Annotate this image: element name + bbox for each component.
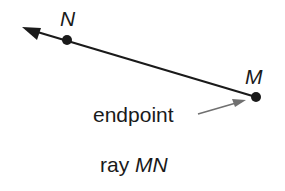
caption-prefix: ray: [100, 153, 135, 176]
point-m-label: M: [245, 66, 263, 87]
point-n: [62, 35, 72, 45]
point-m: [251, 92, 261, 102]
point-n-label: N: [60, 8, 75, 29]
endpoint-pointer-arrowhead-icon: [232, 99, 246, 107]
endpoint-label: endpoint: [93, 104, 174, 125]
caption: ray MN: [100, 154, 168, 175]
endpoint-pointer-arrow: [198, 103, 236, 114]
ray-arrowhead-icon: [22, 27, 41, 40]
caption-ray-name: MN: [135, 153, 168, 176]
